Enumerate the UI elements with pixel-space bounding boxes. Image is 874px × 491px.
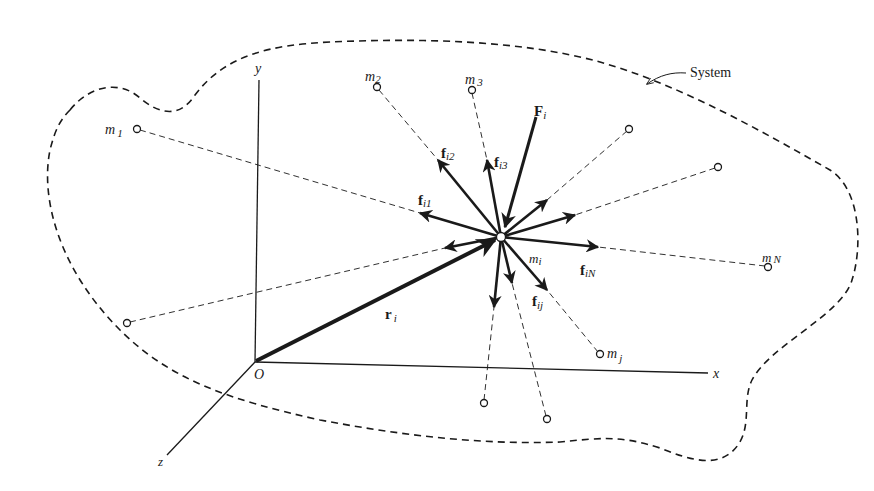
particle-m3 [469,87,476,94]
force-top-right-2 [501,215,575,237]
y-axis-label: y [253,61,262,76]
particle-system-diagram: System y x z O [0,0,874,491]
label-fiN: fiN [580,262,596,279]
force-fi3 [487,160,501,237]
label-fij: fij [532,293,543,311]
label-ri: ri [385,306,397,324]
position-vector-ri [256,240,495,361]
particle-bottom-1 [481,400,488,407]
particle-m1 [134,126,141,133]
force-fi2 [438,160,501,237]
force-bottom-1 [494,237,501,307]
system-label: System [690,65,731,80]
label-m2: m2 [365,69,381,85]
x-axis-label: x [712,366,720,381]
label-fi2: fi2 [441,145,455,162]
label-Fi: Fi [534,103,546,121]
label-mj: mj [607,346,622,364]
system-boundary [48,40,858,460]
x-axis [255,362,708,373]
internal-forces [420,160,598,307]
force-fiN [501,237,598,247]
label-m1: m1 [105,122,123,139]
particle-mi [497,233,506,242]
particle-left [124,320,131,327]
label-mN: mN [762,250,781,265]
particle-bottom-2 [544,416,551,423]
force-fi1 [420,213,501,237]
z-axis-label: z [157,454,163,469]
label-fi3: fi3 [494,154,508,171]
label-mi: mi [529,251,541,267]
label-m3: m3 [465,72,483,88]
system-pointer-icon [647,73,686,84]
external-force-Fi [505,117,536,227]
z-axis [167,362,255,455]
particle-top-right-2 [715,164,722,171]
y-axis [255,80,259,362]
particle-top-right-1 [626,126,633,133]
particle-mj [597,351,604,358]
origin-label: O [254,367,264,382]
label-fi1: fi1 [418,192,432,209]
